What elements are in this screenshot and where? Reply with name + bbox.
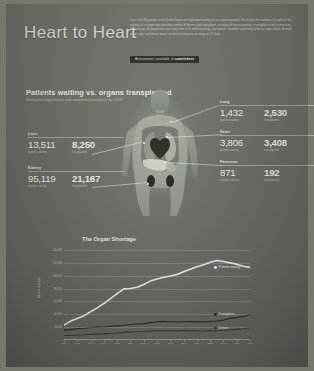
stat-rule xyxy=(220,105,314,106)
stat-waiting: 13,511 patients waiting xyxy=(28,140,62,155)
stat-organ-label: Liver xyxy=(28,132,124,136)
stat-waiting-value: 1,432 xyxy=(220,108,254,118)
stat-block-kidney: Kidney 95,119 patients waiting 21,167 tr… xyxy=(28,166,124,189)
stat-waiting: 871 patients waiting xyxy=(220,168,254,183)
chart-x-tick-label: 2003 xyxy=(141,342,146,345)
stat-waiting-caption: patients waiting xyxy=(28,185,62,189)
assessment-badge[interactable]: Assessment available at smartsheet xyxy=(130,56,199,63)
stat-transplanted-caption: transplanted xyxy=(264,149,298,153)
organ-shortage-chart: The Organ Shortage Number of people 140,… xyxy=(24,232,292,360)
stat-transplanted-value: 8,250 xyxy=(72,140,106,150)
stat-transplanted-caption: transplanted xyxy=(72,185,106,189)
chart-x-tick-label: 1999 xyxy=(114,342,119,345)
infographic-poster: Heart to Heart Over 100,000 people in th… xyxy=(0,0,314,371)
stat-block-liver: Liver 13,511 patients waiting 8,250 tran… xyxy=(28,132,124,155)
leader-dot-lung xyxy=(170,121,172,123)
chart-legend-item: Patients waiting xyxy=(214,265,240,269)
stat-rule xyxy=(28,137,124,138)
badge-brand: smartsheet xyxy=(175,57,194,61)
stat-waiting-value: 871 xyxy=(220,168,254,178)
chart-x-tick-label: 1993 xyxy=(75,342,80,345)
intro-paragraph: Over 100,000 people in the United States… xyxy=(130,18,296,36)
stat-waiting-caption: patients waiting xyxy=(220,179,254,183)
chart-x-tick-label: 2009 xyxy=(181,342,186,345)
chart-y-tick-label: 80,000 xyxy=(54,287,62,290)
chart-title: The Organ Shortage xyxy=(82,236,136,242)
chart-x-tick-label: 1997 xyxy=(101,342,106,345)
stat-transplanted-caption: transplanted xyxy=(264,119,298,123)
chart-x-tick-label: 2015 xyxy=(221,342,226,345)
chart-legend-swatch xyxy=(214,313,217,316)
left-kidney-organ xyxy=(147,175,155,187)
chart-x-tick-label: 2019 xyxy=(247,342,252,345)
stat-transplanted: 3,408 transplanted xyxy=(264,138,298,153)
chart-x-tick-label: 2007 xyxy=(168,342,173,345)
chart-legend-item: Transplants xyxy=(214,312,235,316)
stat-transplanted-value: 192 xyxy=(264,168,298,178)
section-subtitle: Waiting list registrations and completed… xyxy=(26,98,122,102)
chart-legend-swatch xyxy=(214,327,217,330)
stat-waiting: 3,806 patients waiting xyxy=(220,138,254,153)
chart-gridline: 120,000 xyxy=(64,263,250,264)
stat-organ-label: Kidney xyxy=(28,166,124,170)
badge-label: Assessment available at xyxy=(135,57,175,61)
stat-rule xyxy=(220,135,314,136)
stat-block-heart: Heart 3,806 patients waiting 3,408 trans… xyxy=(220,130,314,153)
leader-dot-pancreas xyxy=(164,161,166,163)
stat-waiting: 1,432 patients waiting xyxy=(220,108,254,123)
chart-x-tick-label: 2005 xyxy=(154,342,159,345)
chart-y-tick-label: 120,000 xyxy=(53,261,62,264)
chart-y-tick-label: 20,000 xyxy=(54,326,62,329)
stat-transplanted: 21,167 transplanted xyxy=(72,174,106,189)
poster-canvas: Heart to Heart Over 100,000 people in th… xyxy=(6,4,308,367)
stat-rule xyxy=(220,165,314,166)
poster-header: Heart to Heart Over 100,000 people in th… xyxy=(6,4,308,80)
stat-block-pancreas: Pancreas 871 patients waiting 192 transp… xyxy=(220,160,314,183)
chart-y-axis-label: Number of people xyxy=(38,277,41,298)
chart-y-tick-label: 100,000 xyxy=(53,274,62,277)
chart-x-tick-label: 1991 xyxy=(61,342,66,345)
leader-dot-heart xyxy=(166,136,168,138)
stat-organ-label: Pancreas xyxy=(220,160,314,164)
stat-transplanted-value: 21,167 xyxy=(72,174,106,184)
chart-x-tick-label: 2013 xyxy=(207,342,212,345)
chart-legend-item: Donors xyxy=(214,326,229,330)
stat-waiting-caption: patients waiting xyxy=(220,149,254,153)
leader-dot-liver xyxy=(143,142,145,144)
leader-dot-kidney xyxy=(147,183,149,185)
stat-rule xyxy=(28,171,124,172)
chart-legend-swatch xyxy=(214,266,217,269)
chart-y-tick-label: 140,000 xyxy=(53,249,62,252)
stat-transplanted-value: 2,530 xyxy=(264,108,298,118)
chart-x-tick-label: 2001 xyxy=(128,342,133,345)
stat-transplanted-caption: transplanted xyxy=(72,151,106,155)
stat-organ-label: Heart xyxy=(220,130,314,134)
chart-legend-label: Transplants xyxy=(219,312,235,316)
chart-gridline: 60,000 xyxy=(64,301,250,302)
chart-y-tick-label: 60,000 xyxy=(54,300,62,303)
chart-gridline: 100,000 xyxy=(64,276,250,277)
stat-waiting: 95,119 patients waiting xyxy=(28,174,62,189)
chart-x-tick-label: 2017 xyxy=(234,342,239,345)
stat-waiting-value: 13,511 xyxy=(28,140,62,150)
stat-transplanted-value: 3,408 xyxy=(264,138,298,148)
chart-x-tick-label: 2011 xyxy=(194,342,199,345)
stat-transplanted: 192 transplanted xyxy=(264,168,298,183)
stat-transplanted-caption: transplanted xyxy=(264,179,298,183)
chart-legend-label: Patients waiting xyxy=(219,265,241,269)
right-kidney-organ xyxy=(166,175,174,187)
stat-waiting-caption: patients waiting xyxy=(28,151,62,155)
stat-organ-label: Lung xyxy=(220,100,314,104)
chart-legend-label: Donors xyxy=(219,326,229,330)
head-shape xyxy=(151,90,170,113)
stat-transplanted: 8,250 transplanted xyxy=(72,140,106,155)
chart-y-tick-label: 40,000 xyxy=(54,313,62,316)
stat-transplanted: 2,530 transplanted xyxy=(264,108,298,123)
stat-block-lung: Lung 1,432 patients waiting 2,530 transp… xyxy=(220,100,314,123)
body-silhouette-svg xyxy=(110,88,210,224)
chart-gridline: 80,000 xyxy=(64,289,250,290)
human-body-illustration xyxy=(110,88,210,224)
stat-waiting-value: 3,806 xyxy=(220,138,254,148)
chart-gridline: 140,000 xyxy=(64,250,250,251)
chart-x-tick-label: 1995 xyxy=(88,342,93,345)
